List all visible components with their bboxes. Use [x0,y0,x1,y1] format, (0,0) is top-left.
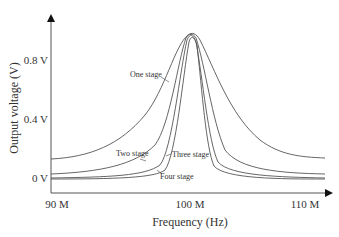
x-tick-100m: 100 M [175,198,204,210]
x-axis-arrow-icon [325,189,333,197]
x-tick-110m: 110 M [291,198,320,210]
curve-one-stage [51,33,325,159]
x-axis-title: Frequency (Hz) [152,215,228,229]
annotation-one-stage: One stage [130,70,162,79]
curve-annotations: One stage Two stage Three stage Four sta… [116,70,210,181]
y-tick-0: 0 V [32,172,48,184]
frequency-response-chart: 0.8 V 0.4 V 0 V 90 M 100 M 110 M Frequen… [0,0,339,237]
annotation-three-stage: Three stage [172,150,210,159]
y-tick-0.8: 0.8 V [24,54,48,66]
annotation-two-stage: Two stage [116,149,149,158]
y-axis-title: Output voltage (V) [7,62,21,153]
y-axis-arrow-icon [47,14,55,22]
axes [47,14,333,197]
annotation-four-stage: Four stage [160,172,194,181]
y-tick-0.4: 0.4 V [24,113,48,125]
x-tick-90m: 90 M [45,198,69,210]
annotation-leader-two [140,159,146,161]
